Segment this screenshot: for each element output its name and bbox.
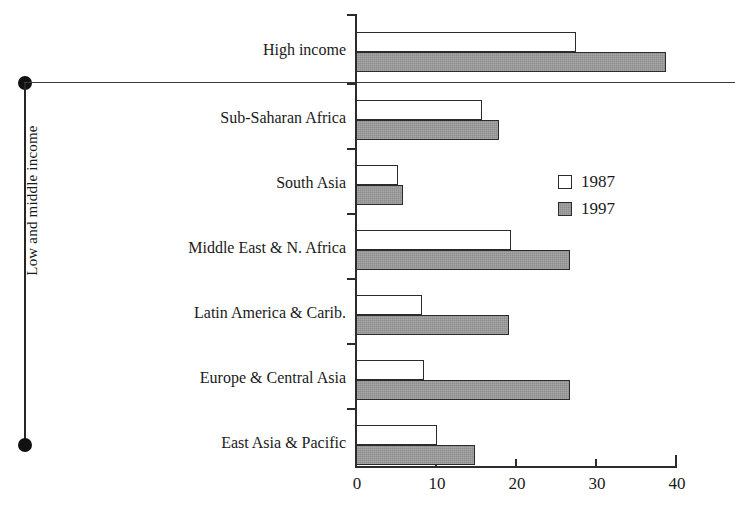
group-axis-label: Low and middle income bbox=[24, 51, 41, 351]
x-axis-tick-label: 20 bbox=[497, 474, 537, 494]
open-square-swatch bbox=[558, 175, 572, 189]
chart-legend: 19871997 bbox=[558, 168, 615, 222]
category-label: High income bbox=[40, 41, 346, 59]
y-axis-tick bbox=[347, 148, 356, 150]
plot-area: 010203040 bbox=[356, 14, 676, 466]
category-label: Middle East & N. Africa bbox=[40, 239, 346, 257]
category-label: Europe & Central Asia bbox=[40, 369, 346, 387]
bracket-dot-bottom bbox=[18, 438, 32, 452]
category-label: South Asia bbox=[40, 174, 346, 192]
bar-1997 bbox=[356, 250, 570, 270]
bar-1987 bbox=[356, 425, 437, 445]
legend-label: 1987 bbox=[581, 173, 615, 190]
y-axis-tick bbox=[347, 343, 356, 345]
bar-1997 bbox=[356, 52, 666, 72]
x-axis-tick-label: 30 bbox=[577, 474, 617, 494]
chart-figure: Low and middle income High incomeSub-Sah… bbox=[0, 0, 735, 525]
y-axis-tick bbox=[347, 213, 356, 215]
bar-1997 bbox=[356, 445, 475, 465]
bar-1987 bbox=[356, 100, 482, 120]
bar-1997 bbox=[356, 185, 403, 205]
bar-1987 bbox=[356, 295, 422, 315]
x-axis-tick bbox=[595, 459, 597, 468]
category-label: East Asia & Pacific bbox=[40, 434, 346, 452]
legend-item: 1987 bbox=[558, 168, 615, 195]
bar-1987 bbox=[356, 165, 398, 185]
x-axis-tick bbox=[515, 459, 517, 468]
y-axis-tick bbox=[347, 14, 356, 16]
bar-1987 bbox=[356, 360, 424, 380]
bar-1997 bbox=[356, 380, 570, 400]
legend-item: 1997 bbox=[558, 195, 615, 222]
bar-1987 bbox=[356, 32, 576, 52]
x-axis-tick-label: 10 bbox=[417, 474, 457, 494]
x-axis-tick-label: 0 bbox=[337, 474, 377, 494]
y-axis-tick bbox=[347, 408, 356, 410]
y-axis-tick bbox=[347, 278, 356, 280]
bar-1987 bbox=[356, 230, 511, 250]
bar-1997 bbox=[356, 120, 499, 140]
category-label: Sub-Saharan Africa bbox=[40, 109, 346, 127]
x-axis-tick-label: 40 bbox=[657, 474, 697, 494]
y-axis-tick bbox=[347, 83, 356, 85]
bar-1997 bbox=[356, 315, 509, 335]
x-axis-tick bbox=[675, 455, 677, 468]
category-label: Latin America & Carib. bbox=[40, 304, 346, 322]
filled-gray-square-swatch bbox=[558, 202, 572, 216]
legend-label: 1997 bbox=[581, 200, 615, 217]
